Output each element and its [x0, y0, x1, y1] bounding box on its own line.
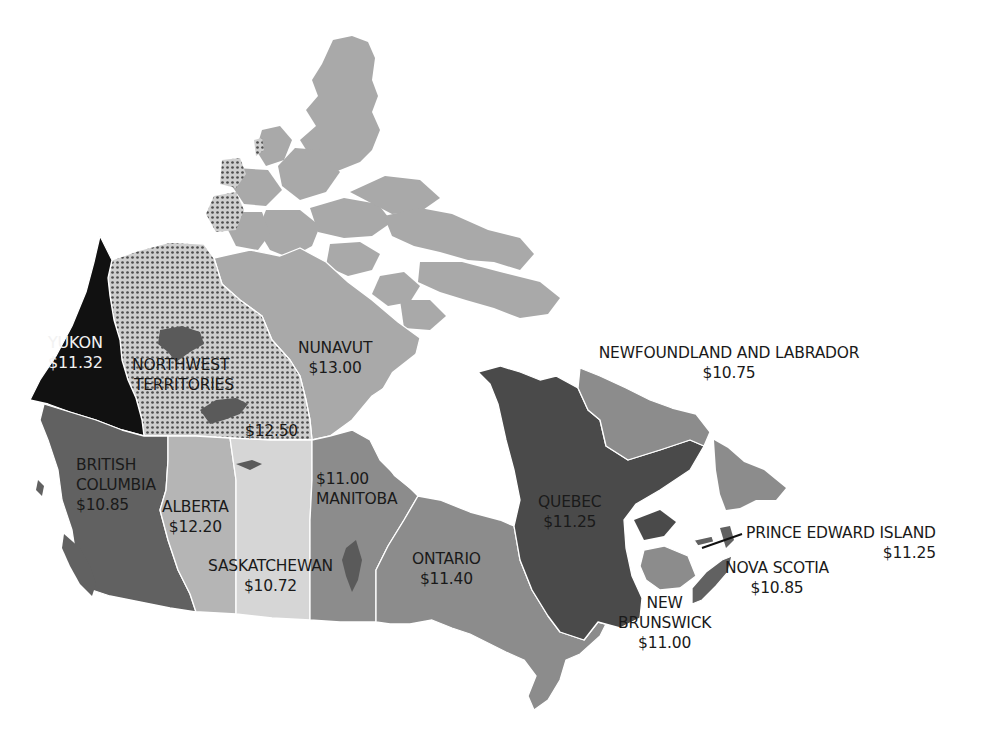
region-value: $11.25: [538, 512, 601, 532]
region-name: QUEBEC: [538, 492, 601, 512]
label-northwest-territories-value: $12.50: [245, 421, 298, 441]
label-nunavut: NUNAVUT $13.00: [298, 338, 372, 378]
region-name-line-2: TERRITORIES: [132, 375, 234, 395]
region-name: SASKATCHEWAN: [208, 556, 333, 576]
haida-gwaii: [36, 480, 44, 496]
label-yukon: YUKON $11.32: [48, 333, 103, 373]
region-name: ALBERTA: [162, 497, 229, 517]
label-new-brunswick: NEW BRUNSWICK $11.00: [618, 593, 711, 653]
region-name: ONTARIO: [412, 549, 481, 569]
label-prince-edward-island: PRINCE EDWARD ISLAND $11.25: [746, 523, 936, 563]
region-value: $10.72: [208, 576, 333, 596]
region-name: NUNAVUT: [298, 338, 372, 358]
region-name: NEW: [618, 593, 711, 613]
label-alberta: ALBERTA $12.20: [162, 497, 229, 537]
region-value: $11.32: [48, 353, 103, 373]
label-ontario: ONTARIO $11.40: [412, 549, 481, 589]
region-value: $11.40: [412, 569, 481, 589]
region-name-line-2: BRUNSWICK: [618, 613, 711, 633]
label-nova-scotia: NOVA SCOTIA $10.85: [725, 558, 829, 598]
region-name: NEWFOUNDLAND AND LABRADOR: [578, 343, 880, 363]
region-value: $11.00: [618, 633, 711, 653]
region-value: $12.20: [162, 517, 229, 537]
region-name: YUKON: [48, 333, 103, 353]
region-value: $11.00: [316, 469, 397, 489]
region-value: $12.50: [245, 421, 298, 441]
region-value: $10.85: [725, 578, 829, 598]
newfoundland-island[interactable]: [714, 440, 786, 510]
region-value: $10.75: [578, 363, 880, 383]
region-value: $11.25: [746, 543, 936, 563]
region-name: PRINCE EDWARD ISLAND: [746, 523, 936, 543]
region-name-line-2: COLUMBIA: [76, 475, 156, 495]
region-value: $10.85: [76, 495, 156, 515]
region-name: BRITISH: [76, 455, 156, 475]
region-name: NORTHWEST: [132, 355, 234, 375]
region-value: $13.00: [298, 358, 372, 378]
region-name: MANITOBA: [316, 489, 397, 509]
label-british-columbia: BRITISH COLUMBIA $10.85: [76, 455, 156, 515]
gaspe-peninsula: [634, 510, 676, 540]
canada-map: YUKON $11.32 NORTHWEST TERRITORIES $12.5…: [0, 0, 985, 730]
label-manitoba: $11.00 MANITOBA: [316, 469, 397, 509]
label-newfoundland-and-labrador: NEWFOUNDLAND AND LABRADOR $10.75: [578, 343, 880, 383]
label-northwest-territories: NORTHWEST TERRITORIES: [132, 355, 234, 395]
label-saskatchewan: SASKATCHEWAN $10.72: [208, 556, 333, 596]
region-new-brunswick[interactable]: [640, 546, 696, 590]
label-quebec: QUEBEC $11.25: [538, 492, 601, 532]
